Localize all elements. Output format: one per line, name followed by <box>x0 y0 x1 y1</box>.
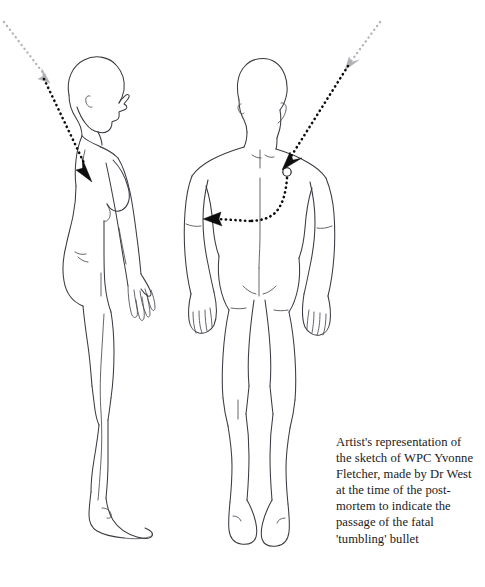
back-knee-left <box>223 398 228 426</box>
side-foot-top <box>106 498 153 538</box>
side-gluteal-crease <box>75 252 88 262</box>
side-knee-front <box>108 398 111 420</box>
back-trajectory-exit-run <box>218 219 250 221</box>
side-neck-front <box>98 132 102 145</box>
side-view-body <box>63 57 155 539</box>
back-ankle-left-bone <box>233 516 241 521</box>
back-trajectory-descent <box>290 66 348 158</box>
back-bullet-path <box>203 22 380 226</box>
side-arm-inner <box>106 163 128 286</box>
back-trajectory-faded <box>349 22 380 64</box>
caption-line: passage of the fatal <box>336 514 485 530</box>
side-far-leg <box>98 314 104 500</box>
side-jaw-line <box>77 107 98 132</box>
caption-line: Artist's representation of <box>336 434 485 450</box>
caption: Artist's representation of the sketch of… <box>336 434 485 547</box>
back-shoulder-left <box>192 147 244 176</box>
back-calf-left-inner <box>246 414 249 500</box>
back-waist-right <box>289 258 300 312</box>
back-hip-crease-left <box>231 308 246 309</box>
side-forearm-crease <box>119 228 126 264</box>
entry-wound-marker <box>283 168 291 176</box>
back-calf-right-inner <box>270 414 273 500</box>
back-waist-left <box>218 256 229 310</box>
side-knee-back <box>92 386 99 425</box>
side-shin-front <box>106 420 108 498</box>
side-trajectory-faded-arrowhead <box>38 69 50 83</box>
caption-line: mortem to indicate the <box>336 498 485 514</box>
side-upper-back <box>75 136 82 186</box>
back-head-left-side <box>239 100 247 132</box>
side-bullet-path <box>4 22 92 182</box>
side-underbust <box>104 204 110 221</box>
back-thigh-left-inner <box>248 300 254 386</box>
back-thigh-right-outer <box>289 312 296 400</box>
side-lumbar-buttock <box>63 186 83 306</box>
back-hip-crease-right <box>274 310 288 311</box>
back-foot-left <box>229 500 257 544</box>
side-torso-front <box>104 221 111 312</box>
side-thigh-front <box>111 312 114 398</box>
back-head-outline <box>237 59 287 110</box>
back-thigh-left-outer <box>222 310 229 398</box>
side-thigh-back <box>83 306 92 386</box>
back-elbow-right <box>317 226 332 228</box>
back-ankle-right-bone <box>277 518 285 523</box>
back-elbow-left <box>186 224 201 226</box>
back-fingers-right <box>307 310 326 335</box>
back-knee-left-inner <box>246 386 249 414</box>
back-knee-right-inner <box>270 386 273 414</box>
caption-line: Fletcher, made by Dr West <box>336 466 485 482</box>
back-calf-right-outer <box>286 428 290 504</box>
back-arm-left-outer <box>184 176 192 294</box>
back-arm-right-outer <box>326 178 335 296</box>
back-knee-right <box>290 400 295 428</box>
back-fingers-left <box>193 308 212 333</box>
back-neck-right <box>276 138 277 149</box>
side-calf-back <box>91 425 99 492</box>
back-trajectory-faded-arrowhead <box>345 57 359 70</box>
caption-line: the sketch of WPC Yvonne <box>336 450 485 466</box>
back-gluteal-folds <box>243 286 276 294</box>
caption-line: 'tumbling' bullet <box>336 531 485 547</box>
side-ear <box>86 96 92 107</box>
side-clavicle <box>100 147 115 155</box>
back-spine-lower <box>259 178 260 268</box>
side-arm-outer <box>118 158 141 274</box>
back-thigh-right-inner <box>265 300 271 386</box>
caption-line: at the time of the post- <box>336 482 485 498</box>
back-calf-left-outer <box>228 426 232 502</box>
back-torso-right-side <box>299 188 312 258</box>
side-head-outline <box>68 57 124 103</box>
back-trajectory-curve <box>248 178 287 221</box>
side-trajectory-faded <box>4 22 47 78</box>
back-neck-left <box>244 132 247 147</box>
back-head-right-side <box>277 110 281 138</box>
back-foot-right <box>261 500 289 546</box>
side-face-profile <box>98 95 129 133</box>
back-c7-marks <box>252 155 274 158</box>
back-view-body <box>184 59 335 547</box>
